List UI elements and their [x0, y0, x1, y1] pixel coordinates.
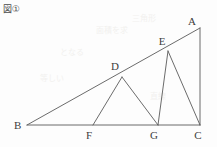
vertex-label-F: F	[86, 129, 92, 141]
vertex-label-D: D	[111, 60, 119, 72]
figure-canvas: 三角形 面積を求 となる 等しい 直線 図① A B C D E F G	[0, 0, 217, 147]
segment-DF	[93, 77, 122, 125]
vertex-label-B: B	[14, 119, 21, 131]
vertex-label-E: E	[159, 35, 166, 47]
segment-EG	[158, 51, 168, 125]
diagram-vertex-labels: A B C D E F G	[14, 15, 202, 141]
geometry-diagram: A B C D E F G	[0, 0, 217, 147]
diagram-segments	[27, 28, 200, 125]
vertex-label-G: G	[150, 129, 158, 141]
segment-BA	[27, 28, 200, 125]
vertex-label-A: A	[188, 15, 196, 27]
vertex-label-C: C	[194, 129, 201, 141]
segment-EC	[168, 51, 200, 125]
segment-DG	[122, 77, 158, 125]
